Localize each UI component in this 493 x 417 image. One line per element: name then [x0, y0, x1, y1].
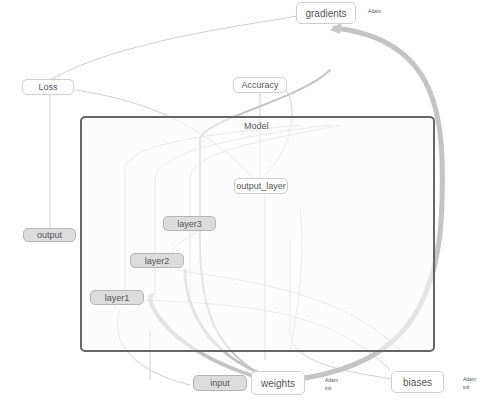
node-layer2[interactable]: layer2	[130, 253, 184, 268]
gradients-adam-label: Adam	[368, 8, 381, 14]
node-output-layer[interactable]: output_layer	[234, 178, 288, 194]
node-accuracy[interactable]: Accuracy	[233, 77, 287, 93]
biases-adam-label: Adam	[463, 376, 476, 382]
node-weights[interactable]: weights	[251, 371, 305, 395]
node-gradients[interactable]: gradients	[296, 2, 356, 24]
model-group[interactable]	[80, 116, 435, 352]
biases-init-label: init	[463, 384, 469, 390]
node-biases[interactable]: biases	[391, 371, 444, 393]
weights-adam-label: Adam	[325, 377, 338, 383]
node-input[interactable]: input	[193, 375, 247, 391]
node-layer3[interactable]: layer3	[163, 216, 216, 231]
node-loss[interactable]: Loss	[22, 79, 74, 95]
node-output[interactable]: output	[23, 228, 76, 242]
model-group-label: Model	[244, 121, 269, 131]
node-layer1[interactable]: layer1	[90, 290, 144, 305]
weights-init-label: init	[325, 385, 331, 391]
